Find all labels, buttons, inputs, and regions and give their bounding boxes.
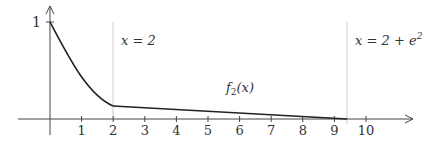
x-tick-labels: 1 2 3 4 5 6 7 8 9 10 (77, 123, 374, 138)
f2-line (113, 106, 347, 119)
svg-text:8: 8 (299, 123, 307, 138)
y-tick-label-1: 1 (32, 14, 41, 30)
svg-text:1: 1 (77, 123, 85, 138)
label-x-equals-2-plus-e2: x = 2 + e2 (355, 31, 423, 48)
svg-text:9: 9 (330, 123, 338, 138)
exp-decay-curve (50, 22, 113, 106)
svg-text:10: 10 (358, 123, 375, 138)
svg-text:2: 2 (109, 123, 117, 138)
svg-text:7: 7 (267, 123, 275, 138)
svg-text:5: 5 (204, 123, 212, 138)
plot-canvas: 1 2 3 4 5 6 7 8 9 10 1 x = 2 x = 2 + e2 … (0, 0, 429, 143)
label-x-equals-2: x = 2 (121, 33, 156, 48)
label-f2-x: f2(x) (225, 80, 254, 97)
svg-text:3: 3 (141, 123, 149, 138)
svg-text:4: 4 (172, 123, 180, 138)
svg-text:6: 6 (235, 123, 243, 138)
